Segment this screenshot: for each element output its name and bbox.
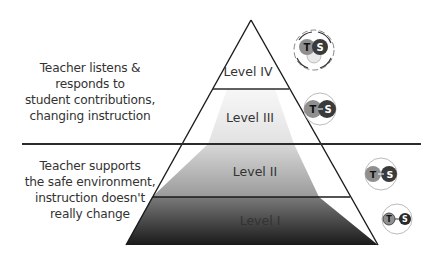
svg-text:T: T: [304, 42, 311, 53]
svg-text:T: T: [370, 169, 377, 180]
description-line: responds to: [0, 76, 180, 92]
teacher-student-overlap-icon: T S: [304, 93, 336, 125]
svg-text:T: T: [310, 104, 317, 115]
teacher-student-partial-icon: T S: [365, 158, 397, 190]
description-line: student contributions,: [0, 92, 180, 108]
description-line: instruction doesn't: [0, 190, 180, 206]
description-line: Teacher supports: [0, 158, 180, 174]
teacher-to-student-icon: T S: [382, 204, 412, 234]
level-3-label: Level III: [200, 110, 300, 125]
description-line: the safe environment,: [0, 174, 180, 190]
svg-text:S: S: [387, 169, 394, 180]
description-line: Teacher listens &: [0, 60, 180, 76]
pyramid-diagram: T S T S T S T S: [0, 0, 444, 261]
svg-text:S: S: [324, 104, 331, 115]
svg-text:S: S: [402, 215, 408, 224]
description-line: changing instruction: [0, 108, 180, 124]
lower-levels-description: Teacher supports the safe environment, i…: [0, 158, 180, 222]
svg-text:S: S: [316, 42, 323, 53]
level-1-label: Level I: [210, 213, 310, 228]
svg-text:T: T: [386, 215, 392, 224]
level-2-label: Level II: [205, 164, 305, 179]
upper-levels-description: Teacher listens & responds to student co…: [0, 60, 180, 124]
description-line: really change: [0, 206, 180, 222]
teacher-student-cycle-icon: T S: [294, 30, 334, 70]
level-4-label: Level IV: [198, 64, 298, 79]
